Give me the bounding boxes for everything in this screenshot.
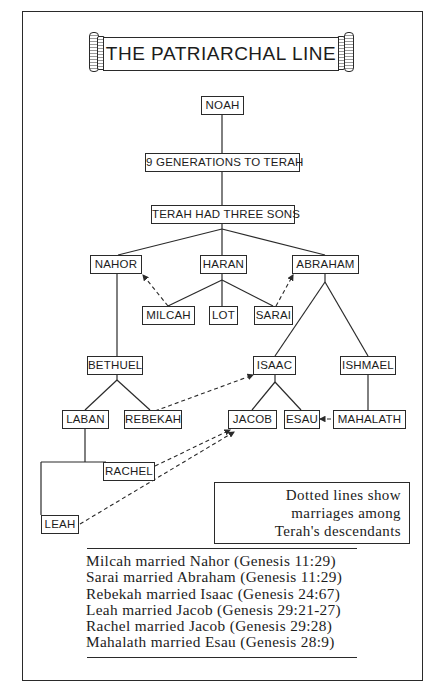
marriage-reference: Sarai married Abraham (Genesis 11:29) bbox=[86, 569, 361, 585]
node-milcah: MILCAH bbox=[142, 306, 195, 325]
marriage-references: Milcah married Nahor (Genesis 11:29) Sar… bbox=[86, 553, 361, 651]
marriage-reference: Leah married Jacob (Genesis 29:21-27) bbox=[86, 602, 361, 618]
node-terah: TERAH HAD THREE SONS bbox=[151, 205, 295, 224]
node-leah: LEAH bbox=[41, 515, 79, 534]
node-ishmael: ISHMAEL bbox=[340, 356, 396, 375]
marriage-reference: Milcah married Nahor (Genesis 11:29) bbox=[86, 553, 361, 569]
node-esau: ESAU bbox=[284, 410, 320, 429]
node-lot: LOT bbox=[209, 306, 238, 325]
node-laban: LABAN bbox=[62, 410, 109, 429]
legend-line: marriages among bbox=[215, 504, 401, 522]
marriage-reference: Rebekah married Isaac (Genesis 24:67) bbox=[86, 586, 361, 602]
marriage-reference: Rachel married Jacob (Genesis 29:28) bbox=[86, 618, 361, 634]
node-nahor: NAHOR bbox=[90, 255, 142, 274]
legend-note: Dotted lines show marriages among Terah'… bbox=[214, 482, 410, 544]
bottom-divider bbox=[87, 657, 357, 658]
node-noah: NOAH bbox=[201, 96, 244, 115]
node-abraham: ABRAHAM bbox=[292, 255, 359, 274]
diagram-title: THE PATRIARCHAL LINE bbox=[103, 37, 339, 71]
node-mahalath: MAHALATH bbox=[333, 410, 406, 429]
top-divider bbox=[87, 548, 357, 549]
marriage-reference: Mahalath married Esau (Genesis 28:9) bbox=[86, 634, 361, 650]
legend-line: Terah's descendants bbox=[215, 522, 401, 540]
node-jacob: JACOB bbox=[228, 410, 277, 429]
node-rebekah: REBEKAH bbox=[124, 410, 182, 429]
node-generations: 9 GENERATIONS TO TERAH bbox=[145, 153, 300, 172]
node-bethuel: BETHUEL bbox=[87, 356, 143, 375]
node-rachel: RACHEL bbox=[103, 462, 155, 481]
node-haran: HARAN bbox=[200, 255, 247, 274]
node-isaac: ISAAC bbox=[253, 356, 296, 375]
legend-line: Dotted lines show bbox=[215, 486, 401, 504]
node-sarai: SARAI bbox=[254, 306, 293, 325]
scroll-right-end-icon bbox=[344, 32, 354, 72]
